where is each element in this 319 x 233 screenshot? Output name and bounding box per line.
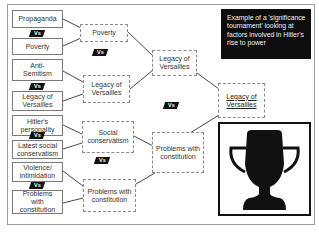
round3-entry-problems-with-constitution: Problems with constitution (152, 132, 204, 173)
round1-entry-poverty: Poverty (12, 38, 63, 55)
round1-entry-latest-social-conservatism: Latest social conservatism (12, 140, 63, 159)
vs-badge: Vs (29, 182, 45, 189)
vs-badge: Vs (29, 83, 45, 90)
vs-badge: Vs (29, 30, 45, 37)
trophy-panel (218, 122, 311, 216)
round1-entry-propaganda: Propaganda (12, 10, 63, 28)
vs-badge: Vs (94, 157, 110, 164)
explanation-note: Example of a 'significance tournament' l… (221, 9, 311, 59)
round1-entry-anti-semitism: Anti-Semitism (12, 59, 63, 81)
round1-entry-violence-intimidation: Violence/ intimidation (12, 162, 63, 182)
vs-badge: Vs (29, 132, 45, 139)
vs-badge: Vs (163, 102, 179, 109)
round2-entry-poverty: Poverty (80, 24, 128, 42)
round1-entry-problems-with-constitution: Problems with constitution (12, 190, 63, 214)
round1-entry-legacy-of-versailles: Legacy of Versailles (12, 91, 63, 111)
vs-badge: Vs (92, 49, 108, 56)
trophy-icon (220, 124, 309, 214)
round3-entry-legacy-of-versailles: Legacy of Versailles (152, 50, 197, 76)
round2-entry-legacy-of-versailles: Legacy of Versailles (83, 75, 130, 103)
round2-entry-social-conservatism: Social conservatism (82, 121, 134, 153)
winner-legacy-of-versailles: Legacy of Versailles (218, 83, 265, 118)
round2-entry-problems-with-constitution: Problems with constitution (83, 179, 136, 212)
